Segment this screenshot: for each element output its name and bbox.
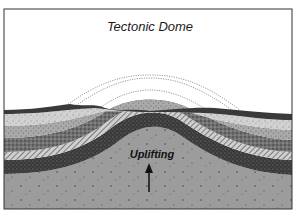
tectonic-dome-diagram: Tectonic Dome Uplifting [0, 0, 297, 213]
uplifting-label: Uplifting [130, 148, 175, 160]
diagram-title: Tectonic Dome [107, 19, 193, 34]
